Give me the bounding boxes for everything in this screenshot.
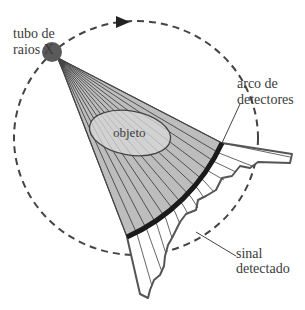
tube-label-line1: tubo de (13, 26, 55, 41)
signal-label-line2: detectado (236, 261, 290, 276)
object-label: objeto (113, 125, 146, 140)
detectors-label-line1: arco de (237, 76, 278, 91)
detectors-leader-line (222, 104, 240, 143)
signal-label-line1: sinal (236, 246, 263, 261)
detectors-label-line2: detectores (237, 92, 294, 107)
signal-leader-line (196, 232, 236, 256)
tube-label-line2: raios X (13, 42, 54, 57)
rotation-arrow-icon (116, 16, 130, 28)
ct-fan-beam-diagram: objeto tubo de raios X arco de detectore… (0, 0, 305, 310)
